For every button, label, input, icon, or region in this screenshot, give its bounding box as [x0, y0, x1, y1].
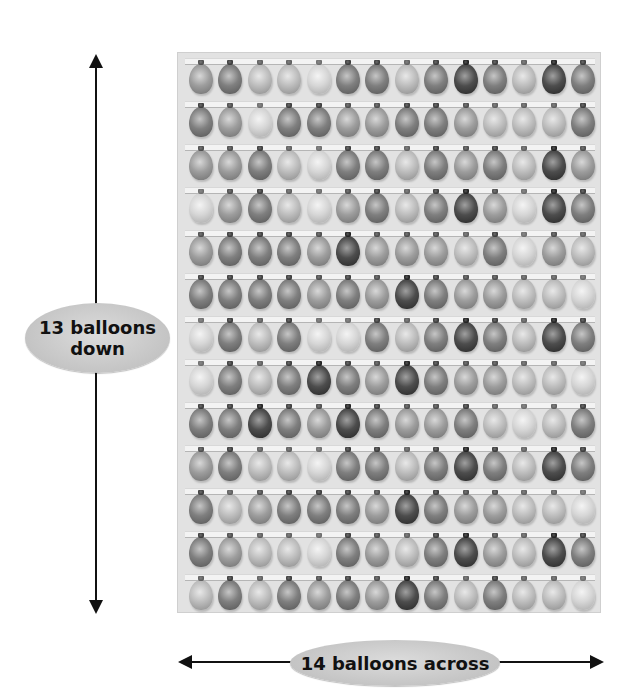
balloon-icon	[277, 236, 301, 266]
balloon-icon	[512, 322, 536, 352]
arrow-right-icon	[590, 655, 604, 669]
balloon-icon	[248, 322, 272, 352]
balloon-icon	[571, 193, 595, 223]
balloon-icon	[218, 279, 242, 309]
balloon-icon	[571, 408, 595, 438]
balloon-icon	[336, 236, 360, 266]
balloon-icon	[277, 322, 301, 352]
balloon-icon	[307, 365, 331, 395]
balloon-icon	[218, 64, 242, 94]
balloon-icon	[542, 322, 566, 352]
balloon-icon	[307, 322, 331, 352]
balloon-icon	[454, 580, 478, 610]
balloon-row	[177, 314, 601, 357]
rows-direction-text: down	[39, 338, 156, 359]
balloon-icon	[395, 64, 419, 94]
balloon-icon	[189, 580, 213, 610]
balloon-icon	[307, 107, 331, 137]
balloon-icon	[424, 580, 448, 610]
balloon-icon	[395, 580, 419, 610]
arrow-up-icon	[89, 54, 103, 68]
balloon-icon	[189, 365, 213, 395]
balloon-icon	[454, 322, 478, 352]
balloon-icon	[395, 408, 419, 438]
balloon-icon	[454, 64, 478, 94]
balloon-icon	[424, 64, 448, 94]
hanging-rail	[185, 316, 595, 323]
balloon-icon	[277, 408, 301, 438]
balloon-icon	[483, 236, 507, 266]
balloon-icon	[189, 537, 213, 567]
balloon-icon	[483, 408, 507, 438]
balloon-icon	[189, 451, 213, 481]
balloon-icon	[395, 451, 419, 481]
balloon-icon	[424, 322, 448, 352]
balloon-row	[177, 400, 601, 443]
columns-count-label: 14 balloons across	[290, 640, 500, 686]
balloon-icon	[248, 365, 272, 395]
balloon-icon	[365, 537, 389, 567]
balloon-row	[177, 99, 601, 142]
balloon-icon	[483, 322, 507, 352]
balloon-icon	[512, 150, 536, 180]
balloon-icon	[542, 365, 566, 395]
balloon-icon	[307, 580, 331, 610]
balloon-icon	[483, 107, 507, 137]
balloon-icon	[307, 279, 331, 309]
balloon-icon	[424, 537, 448, 567]
balloon-icon	[483, 193, 507, 223]
balloon-icon	[307, 64, 331, 94]
balloon-row	[177, 443, 601, 486]
balloon-icon	[277, 279, 301, 309]
balloon-icon	[336, 537, 360, 567]
balloon-icon	[542, 580, 566, 610]
balloon-icon	[336, 365, 360, 395]
balloon-icon	[365, 365, 389, 395]
balloon-icon	[218, 193, 242, 223]
balloon-icon	[365, 494, 389, 524]
balloon-row	[177, 142, 601, 185]
balloon-icon	[307, 408, 331, 438]
balloon-icon	[424, 365, 448, 395]
hanging-rail	[185, 230, 595, 237]
balloon-icon	[307, 236, 331, 266]
balloon-icon	[336, 322, 360, 352]
balloon-icon	[512, 580, 536, 610]
balloon-icon	[483, 365, 507, 395]
balloon-row	[177, 56, 601, 99]
balloon-icon	[395, 279, 419, 309]
balloon-icon	[248, 279, 272, 309]
balloon-icon	[454, 537, 478, 567]
balloon-icon	[395, 365, 419, 395]
balloon-icon	[218, 322, 242, 352]
balloon-icon	[365, 236, 389, 266]
balloon-icon	[218, 408, 242, 438]
balloon-icon	[365, 64, 389, 94]
balloon-icon	[277, 537, 301, 567]
hanging-rail	[185, 445, 595, 452]
balloon-icon	[542, 150, 566, 180]
balloon-icon	[395, 236, 419, 266]
balloon-icon	[424, 494, 448, 524]
balloon-row	[177, 572, 601, 615]
balloon-icon	[277, 365, 301, 395]
balloon-icon	[365, 580, 389, 610]
balloon-row	[177, 228, 601, 271]
balloon-icon	[512, 279, 536, 309]
balloon-icon	[542, 193, 566, 223]
balloon-icon	[248, 150, 272, 180]
balloon-icon	[395, 193, 419, 223]
balloon-icon	[542, 537, 566, 567]
balloon-icon	[542, 107, 566, 137]
balloon-icon	[365, 408, 389, 438]
balloon-icon	[571, 107, 595, 137]
balloon-icon	[248, 580, 272, 610]
balloon-icon	[218, 451, 242, 481]
balloon-icon	[542, 408, 566, 438]
balloon-icon	[424, 279, 448, 309]
columns-count-text: 14 balloons across	[301, 653, 490, 674]
balloon-icon	[336, 279, 360, 309]
balloon-icon	[218, 150, 242, 180]
hanging-rail	[185, 531, 595, 538]
balloon-icon	[571, 537, 595, 567]
